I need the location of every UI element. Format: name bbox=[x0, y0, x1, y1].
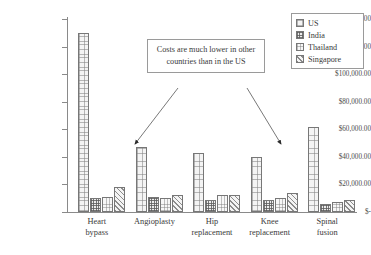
category-label: Spinal fusion bbox=[298, 216, 356, 238]
bar-singapore bbox=[229, 195, 240, 212]
bar-india bbox=[320, 204, 331, 212]
legend-swatch-icon bbox=[296, 19, 304, 27]
legend-label: US bbox=[308, 19, 318, 28]
chart-legend: USIndiaThailandSingapore bbox=[291, 13, 364, 69]
y-tick-mark bbox=[62, 157, 67, 158]
bar-india bbox=[148, 197, 159, 212]
bar-singapore bbox=[287, 193, 298, 212]
legend-label: Singapore bbox=[308, 55, 341, 64]
bar-singapore bbox=[172, 195, 183, 212]
legend-swatch-icon bbox=[296, 31, 304, 39]
bar-thailand bbox=[217, 195, 228, 212]
bar-us bbox=[193, 153, 204, 212]
bar-singapore bbox=[344, 200, 355, 212]
legend-item-thailand[interactable]: Thailand bbox=[296, 41, 359, 53]
bar-india bbox=[205, 200, 216, 212]
legend-item-singapore[interactable]: Singapore bbox=[296, 53, 359, 65]
bar-india bbox=[263, 200, 274, 212]
category-label: Heart bypass bbox=[68, 216, 126, 238]
legend-label: Thailand bbox=[308, 43, 337, 52]
category-label: Knee replacement bbox=[241, 216, 299, 238]
y-tick-mark bbox=[62, 74, 67, 75]
bar-us bbox=[308, 127, 319, 212]
y-tick-mark bbox=[62, 129, 67, 130]
bar-india bbox=[90, 198, 101, 212]
legend-label: India bbox=[308, 31, 325, 40]
y-tick-mark bbox=[62, 102, 67, 103]
bar-chart: $140,000.00$120,000.00$100,000.00$80,000… bbox=[0, 0, 371, 255]
annotation-callout: Costs are much lower in other countries … bbox=[147, 39, 265, 73]
y-tick-mark bbox=[62, 19, 67, 20]
y-tick-mark bbox=[62, 47, 67, 48]
legend-item-india[interactable]: India bbox=[296, 29, 359, 41]
category-label: Angioplasty bbox=[126, 216, 184, 227]
bar-thailand bbox=[275, 198, 286, 212]
bar-thailand bbox=[160, 198, 171, 212]
bar-group bbox=[68, 19, 126, 212]
legend-swatch-icon bbox=[296, 55, 304, 63]
annotation-text: Costs are much lower in other countries … bbox=[157, 45, 255, 66]
bar-thailand bbox=[102, 197, 113, 212]
bar-us bbox=[251, 157, 262, 212]
bar-singapore bbox=[114, 187, 125, 213]
bar-us bbox=[78, 33, 89, 212]
y-tick-mark bbox=[62, 184, 67, 185]
legend-swatch-icon bbox=[296, 43, 304, 51]
bar-thailand bbox=[332, 202, 343, 212]
legend-item-us[interactable]: US bbox=[296, 17, 359, 29]
bar-us bbox=[136, 147, 147, 212]
category-label: Hip replacement bbox=[183, 216, 241, 238]
y-tick-mark bbox=[62, 212, 67, 213]
